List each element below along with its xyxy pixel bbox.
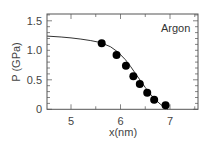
data-point xyxy=(129,72,137,80)
y-axis-label: P (GPa) xyxy=(10,42,22,82)
tick-labels: 56700.51.01.5 xyxy=(27,15,173,127)
x-tick-label: 5 xyxy=(68,115,74,127)
data-point xyxy=(143,89,151,97)
x-axis-label: x(nm) xyxy=(109,126,137,138)
data-point xyxy=(150,96,158,104)
data-point xyxy=(162,101,170,109)
data-points xyxy=(98,39,170,109)
annotation-argon: Argon xyxy=(161,22,190,34)
data-point xyxy=(136,80,144,88)
data-point xyxy=(113,51,121,59)
y-tick-label: 0.5 xyxy=(27,74,42,86)
x-tick-label: 7 xyxy=(167,115,173,127)
data-point xyxy=(122,62,130,70)
pressure-chart: 56700.51.01.5 Argon x(nm) P (GPa) xyxy=(0,0,210,147)
y-tick-label: 0 xyxy=(36,103,42,115)
data-point xyxy=(98,39,106,47)
y-tick-label: 1.0 xyxy=(27,44,42,56)
y-tick-label: 1.5 xyxy=(27,15,42,27)
fit-curve xyxy=(47,36,168,109)
